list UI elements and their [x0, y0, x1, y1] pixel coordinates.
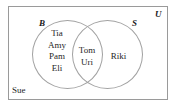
venn-diagram-figure: B S U Tia Amy Pam Eli Tom Uri Riki Sue [0, 0, 177, 111]
region-members-intersection: Tom Uri [73, 45, 101, 68]
set-label-b: B [39, 18, 45, 28]
member-name: Sue [12, 85, 42, 97]
universal-set-label: U [155, 9, 162, 19]
member-name: Riki [104, 51, 133, 63]
member-name: Tom [73, 45, 101, 57]
set-label-s: S [132, 18, 137, 28]
member-name: Uri [73, 57, 101, 69]
member-name: Tia [34, 28, 80, 40]
region-members-outside: Sue [12, 85, 42, 97]
region-members-right-only: Riki [104, 51, 133, 63]
